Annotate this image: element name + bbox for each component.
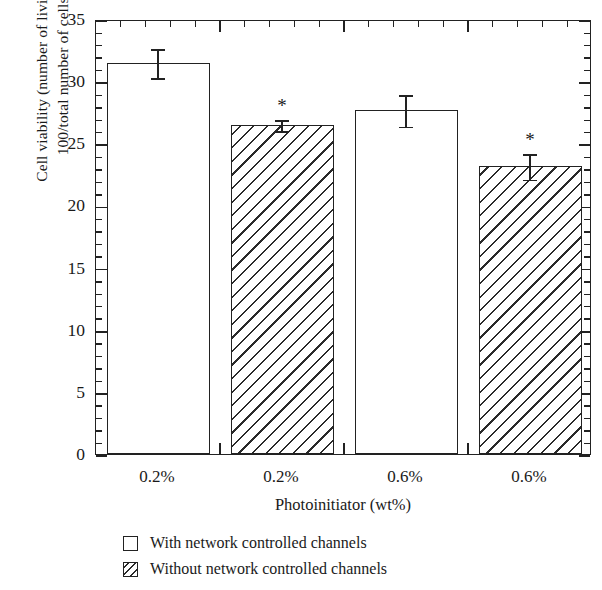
y-tick-minor: [584, 132, 590, 133]
y-tick-minor: [96, 132, 102, 133]
y-tick-major: [579, 20, 590, 22]
x-tick-major: [467, 443, 469, 454]
x-tick-minor: [492, 21, 493, 27]
y-tick-minor: [96, 343, 102, 344]
x-tick-label: 0.6%: [345, 467, 465, 487]
y-tick-major: [579, 82, 590, 84]
error-bar-cap-bottom: [275, 131, 289, 133]
y-tick-major: [579, 144, 590, 146]
y-tick-major: [96, 269, 107, 271]
y-tick-minor: [584, 343, 590, 344]
error-bar-2: [272, 120, 292, 132]
y-tick-minor: [584, 107, 590, 108]
y-tick-minor: [584, 294, 590, 295]
y-tick-minor: [584, 45, 590, 46]
error-bar-cap-bottom: [399, 127, 413, 129]
y-tick-minor: [96, 306, 102, 307]
y-tick-minor: [96, 33, 102, 34]
y-tick-minor: [584, 57, 590, 58]
error-bar-stem: [529, 154, 531, 181]
error-bar-stem: [157, 49, 159, 80]
y-tick-label: 15: [43, 260, 85, 278]
y-tick-label: 0: [43, 446, 85, 464]
error-bar-3: [396, 95, 416, 129]
significance-marker-4: *: [525, 130, 535, 149]
y-tick-major: [96, 455, 107, 457]
y-tick-minor: [96, 219, 102, 220]
y-tick-major: [579, 455, 590, 457]
y-tick-minor: [584, 182, 590, 183]
x-tick-minor: [294, 21, 295, 27]
error-bar-cap-bottom: [523, 180, 537, 182]
error-bar-cap-top: [151, 49, 165, 51]
x-tick-minor: [269, 21, 270, 27]
y-tick-minor: [96, 57, 102, 58]
bar-1: [107, 63, 210, 455]
x-tick-minor: [418, 21, 419, 27]
error-bar-4: [520, 154, 540, 181]
bar-2: [231, 125, 334, 454]
x-tick-major: [219, 443, 221, 454]
y-tick-minor: [584, 405, 590, 406]
y-tick-minor: [584, 306, 590, 307]
error-bar-cap-top: [399, 95, 413, 97]
x-tick-label: 0.2%: [97, 467, 217, 487]
y-tick-minor: [96, 169, 102, 170]
y-tick-minor: [96, 45, 102, 46]
y-tick-minor: [96, 418, 102, 419]
x-tick-minor: [368, 21, 369, 27]
plot-area: **: [95, 20, 591, 455]
y-tick-minor: [96, 70, 102, 71]
y-tick-major: [96, 207, 107, 209]
y-tick-minor: [96, 231, 102, 232]
y-tick-label: 5: [43, 384, 85, 402]
y-tick-minor: [96, 182, 102, 183]
x-tick-label: 0.2%: [221, 467, 341, 487]
y-tick-minor: [584, 70, 590, 71]
y-tick-minor: [96, 430, 102, 431]
x-tick-major: [219, 21, 221, 32]
y-tick-label: 10: [43, 322, 85, 340]
y-tick-minor: [584, 194, 590, 195]
y-tick-minor: [96, 244, 102, 245]
y-tick-minor: [584, 157, 590, 158]
significance-marker-2: *: [277, 96, 287, 115]
error-bar-stem: [405, 95, 407, 129]
y-tick-minor: [584, 169, 590, 170]
x-tick-major: [343, 21, 345, 32]
x-tick-minor: [319, 21, 320, 27]
x-tick-minor: [443, 21, 444, 27]
y-tick-minor: [584, 256, 590, 257]
y-tick-minor: [584, 219, 590, 220]
figure-cell-viability-bar-chart: Cell viability (number of living cells ×…: [0, 0, 602, 590]
y-tick-minor: [96, 95, 102, 96]
x-tick-minor: [145, 21, 146, 27]
y-tick-major: [96, 20, 107, 22]
error-bar-cap-top: [275, 120, 289, 122]
x-tick-minor: [393, 21, 394, 27]
y-tick-minor: [96, 157, 102, 158]
legend-swatch-hatched-icon: [123, 562, 138, 577]
y-tick-minor: [584, 281, 590, 282]
y-tick-minor: [96, 256, 102, 257]
legend-item-without-channels: Without network controlled channels: [123, 556, 387, 582]
y-tick-minor: [584, 33, 590, 34]
legend-label-with-channels: With network controlled channels: [150, 534, 367, 552]
y-tick-major: [96, 144, 107, 146]
y-tick-major: [96, 82, 107, 84]
y-tick-minor: [96, 107, 102, 108]
x-axis-title: Photoinitiator (wt%): [95, 495, 591, 515]
y-tick-minor: [584, 430, 590, 431]
x-tick-major: [467, 21, 469, 32]
x-tick-minor: [195, 21, 196, 27]
y-tick-label: 25: [43, 136, 85, 154]
x-tick-minor: [542, 21, 543, 27]
y-tick-minor: [584, 244, 590, 245]
y-tick-minor: [584, 443, 590, 444]
x-tick-label: 0.6%: [469, 467, 589, 487]
y-tick-minor: [584, 318, 590, 319]
y-tick-major: [96, 393, 107, 395]
y-tick-minor: [96, 120, 102, 121]
y-tick-label: 35: [43, 11, 85, 29]
y-tick-minor: [96, 443, 102, 444]
